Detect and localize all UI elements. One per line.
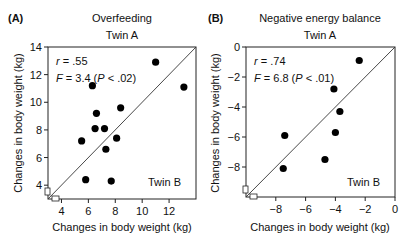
data-point — [321, 156, 328, 163]
x-tick-label: 4 — [58, 205, 64, 217]
x-tick-label: −6 — [299, 203, 312, 215]
x-tick-label: 10 — [136, 205, 148, 217]
x-tick-label: 8 — [112, 205, 118, 217]
panel-b-stat-f: F = 6.8 (P < .01) — [254, 72, 334, 84]
data-point — [101, 125, 108, 132]
x-tick-label: 0 — [392, 203, 398, 215]
x-tick-label: −4 — [329, 203, 342, 215]
y-tick-label: 8 — [36, 124, 42, 136]
data-point — [152, 59, 159, 66]
y-tick-label: 6 — [36, 152, 42, 164]
axis-break-icon — [45, 188, 50, 195]
x-tick-label: 6 — [85, 205, 91, 217]
y-tick-label: −4 — [227, 101, 240, 113]
data-point — [281, 132, 288, 139]
y-tick-label: −2 — [227, 71, 240, 83]
data-point — [82, 176, 89, 183]
panel-b-plot: 0−2−4−6−8−8−6−4−20 — [227, 41, 398, 215]
panel-b-stat-r: r = .74 — [254, 55, 286, 67]
panel-b-title: Negative energy balance — [259, 12, 381, 24]
panel-a-stat-r: r = .55 — [56, 55, 88, 67]
panel-b-ylabel: Changes in body weight (kg) — [209, 53, 221, 192]
figure: (A) Overfeeding Twin A Twin B r = .55 F … — [0, 0, 412, 247]
panel-a-stat-f: F = 3.4 (P < .02) — [56, 72, 136, 84]
y-tick-label: 10 — [30, 96, 42, 108]
axis-break-icon — [250, 194, 257, 199]
panel-a-twin-a-label: Twin A — [106, 29, 139, 41]
data-point — [91, 125, 98, 132]
panel-b-label: (B) — [208, 12, 224, 24]
y-tick-label: 4 — [36, 179, 42, 191]
data-point — [356, 57, 363, 64]
panel-b-twin-a-label: Twin A — [304, 29, 337, 41]
data-point — [332, 129, 339, 136]
data-point — [102, 146, 109, 153]
data-point — [180, 83, 187, 90]
axis-break-icon — [52, 196, 59, 201]
identity-line — [246, 47, 395, 197]
panel-a-plot: 4681012144681012 — [30, 41, 196, 217]
y-tick-label: 12 — [30, 69, 42, 81]
y-tick-label: 0 — [234, 41, 240, 53]
panel-b-xlabel: Changes in body weight (kg) — [250, 221, 389, 233]
panel-a-ylabel: Changes in body weight (kg) — [12, 53, 24, 192]
data-point — [89, 82, 96, 89]
x-tick-label: 12 — [163, 205, 175, 217]
data-point — [78, 137, 85, 144]
data-point — [113, 135, 120, 142]
y-tick-label: 14 — [30, 41, 42, 53]
data-point — [280, 165, 287, 172]
axis-break-icon — [243, 186, 248, 193]
y-tick-label: −6 — [227, 131, 240, 143]
data-point — [108, 177, 115, 184]
x-tick-label: −2 — [359, 203, 372, 215]
data-point — [336, 108, 343, 115]
panel-a-title: Overfeeding — [92, 12, 152, 24]
x-tick-label: −8 — [270, 203, 283, 215]
panel-a-twin-b-label: Twin B — [148, 176, 181, 188]
data-point — [93, 110, 100, 117]
data-point — [117, 104, 124, 111]
panel-a-label: (A) — [8, 12, 24, 24]
y-tick-label: −8 — [227, 161, 240, 173]
panel-a-xlabel: Changes in body weight (kg) — [52, 221, 191, 233]
data-point — [330, 85, 337, 92]
panel-b-twin-b-label: Twin B — [347, 176, 380, 188]
